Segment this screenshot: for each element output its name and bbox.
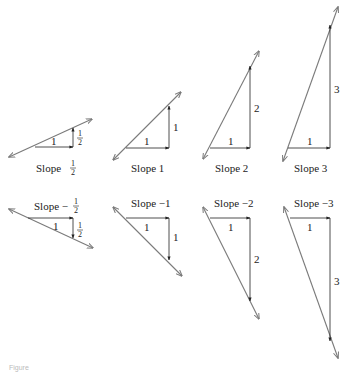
panel-label: Slope −3 <box>294 197 334 209</box>
panel-label-fraction: 1 2 <box>73 197 79 215</box>
svg-text:1: 1 <box>71 159 75 168</box>
figure-caption: Figure <box>9 364 29 372</box>
run-label: 1 <box>144 221 150 233</box>
panel-slope-neg-half: Slope − 1 2 1 1 2 <box>9 197 93 248</box>
run-label: 1 <box>51 135 57 147</box>
run-label: 1 <box>228 221 234 233</box>
svg-text:1: 1 <box>74 197 78 206</box>
panel-label-prefix: Slope − <box>34 200 68 212</box>
run-label: 1 <box>307 221 313 233</box>
panel-label-prefix: Slope <box>36 162 61 174</box>
svg-text:1: 1 <box>78 221 82 230</box>
panel-label-fraction: 1 2 <box>70 159 76 177</box>
svg-text:2: 2 <box>78 138 82 147</box>
panel-label: Slope −2 <box>214 197 254 209</box>
svg-text:1: 1 <box>78 129 82 138</box>
panel-slope-half: 1 1 2 Slope 1 2 <box>9 119 92 177</box>
rise-label: 2 <box>254 253 260 265</box>
line <box>113 92 181 160</box>
panel-label: Slope −1 <box>131 197 171 209</box>
panel-slope-3: 1 3 Slope 3 <box>283 7 340 174</box>
run-label: 1 <box>53 220 59 232</box>
panel-label: Slope 3 <box>294 162 328 174</box>
svg-text:2: 2 <box>71 168 75 177</box>
panel-slope-2: 1 2 Slope 2 <box>203 51 260 174</box>
run-label: 1 <box>228 135 234 147</box>
line <box>113 207 182 276</box>
svg-text:2: 2 <box>78 230 82 239</box>
panel-slope-neg-1: Slope −1 1 1 <box>113 197 182 276</box>
rise-label: 1 <box>173 231 179 243</box>
panel-slope-1: 1 1 Slope 1 <box>113 92 181 174</box>
slopes-diagram: 1 1 2 Slope 1 2 1 1 Slope 1 1 2 Slope 2 <box>0 0 347 372</box>
rise-label: 3 <box>334 275 340 287</box>
panel-label: Slope 2 <box>215 162 248 174</box>
panel-label: Slope 1 <box>131 162 164 174</box>
panel-slope-neg-2: Slope −2 1 2 <box>203 197 260 319</box>
run-label: 1 <box>307 135 313 147</box>
rise-label: 1 <box>173 121 179 133</box>
panel-slope-neg-3: Slope −3 1 3 <box>284 197 340 358</box>
rise-label: 3 <box>334 83 340 95</box>
rise-label: 2 <box>254 102 260 114</box>
run-label: 1 <box>144 135 150 147</box>
rise-label-fraction: 1 2 <box>77 129 83 147</box>
svg-text:2: 2 <box>74 206 78 215</box>
rise-label-fraction: 1 2 <box>77 221 83 239</box>
